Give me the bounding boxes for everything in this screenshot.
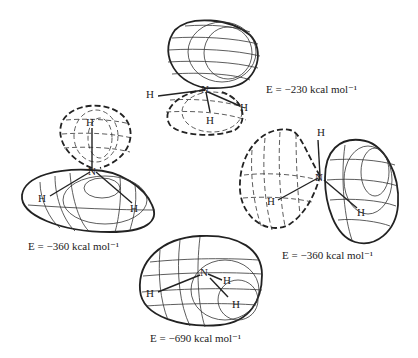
bottom-atom-H2: H <box>223 274 231 286</box>
right-energy-label: E = −360 kcal mol⁻¹ <box>282 249 373 261</box>
top-atom-H2: H <box>240 101 248 113</box>
orbital-top: N H H H E = −230 kcal mol⁻¹ <box>146 20 357 135</box>
right-atom-H1: H <box>317 126 325 138</box>
top-atom-H3: H <box>206 114 214 126</box>
orbital-bottom: N H H H E = −690 kcal mol⁻¹ <box>140 236 262 344</box>
left-lobe-dashed <box>60 106 130 168</box>
left-lobe-dashed-grid <box>62 110 132 162</box>
right-atom-N: N <box>315 171 323 183</box>
right-lobe-dashed-grid <box>243 132 318 230</box>
left-energy-label: E = −360 kcal mol⁻¹ <box>28 240 119 252</box>
left-atom-H3: H <box>130 202 138 214</box>
orbital-diagram: N H H H E = −230 kcal mol⁻¹ N <box>0 0 418 358</box>
top-atom-H1: H <box>146 88 154 100</box>
top-energy-label: E = −230 kcal mol⁻¹ <box>266 83 357 95</box>
right-lobe-solid <box>325 140 398 243</box>
right-lobe-grid <box>327 145 398 240</box>
orbital-left: N H H H E = −360 kcal mol⁻¹ <box>22 106 155 252</box>
right-atom-H2: H <box>267 195 275 207</box>
right-atom-H3: H <box>357 206 365 218</box>
left-atom-H2: H <box>38 192 46 204</box>
bottom-atom-N: N <box>200 266 208 278</box>
left-atom-H1: H <box>86 116 94 128</box>
top-lobe-grid <box>168 22 260 82</box>
bottom-lobe-grid <box>142 237 262 327</box>
bottom-atom-H1: H <box>146 287 154 299</box>
left-atom-N: N <box>88 165 96 177</box>
top-atom-N: N <box>201 83 209 95</box>
bottom-energy-label: E = −690 kcal mol⁻¹ <box>150 332 241 344</box>
orbital-right: N H H H E = −360 kcal mol⁻¹ <box>240 126 398 261</box>
bottom-atom-H3: H <box>232 298 240 310</box>
